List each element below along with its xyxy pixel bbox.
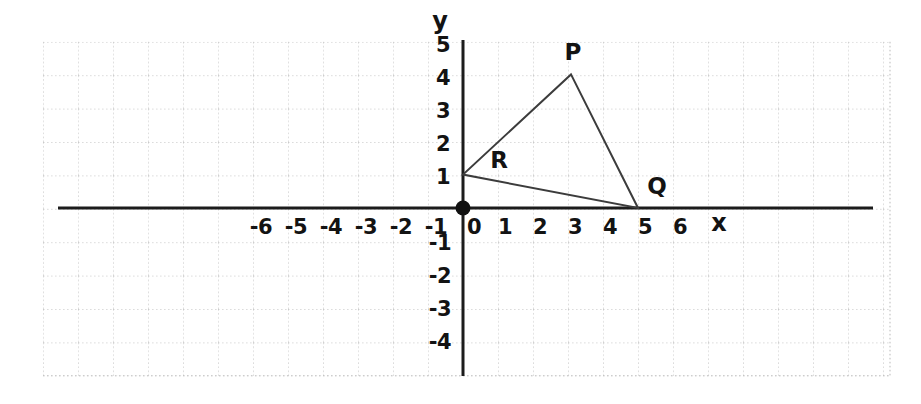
x-tick-neg6: -6 (250, 217, 272, 238)
y-tick-1: 1 (436, 167, 450, 188)
x-tick-neg1: -1 (425, 217, 447, 238)
vertex-label-q: Q (647, 175, 667, 198)
x-tick-1: 1 (498, 217, 512, 238)
y-tick-4: 4 (436, 68, 450, 89)
origin-dot (456, 201, 471, 216)
x-tick-4: 4 (603, 217, 617, 238)
x-tick-0: 0 (467, 217, 481, 238)
y-tick-neg2: -2 (429, 266, 451, 287)
x-tick-3: 3 (568, 217, 582, 238)
x-tick-6: 6 (673, 217, 687, 238)
x-tick-2: 2 (533, 217, 547, 238)
x-tick-neg4: -4 (320, 217, 342, 238)
x-tick-neg5: -5 (285, 217, 307, 238)
x-tick-neg3: -3 (355, 217, 377, 238)
y-tick-5: 5 (436, 35, 450, 56)
x-axis-label: x (711, 211, 726, 235)
coordinate-plane-figure: y x 5 4 3 2 1 -1 -2 -3 -4 -6 -5 -4 -3 -2… (0, 0, 921, 404)
vertex-label-p: P (565, 41, 582, 64)
x-tick-neg2: -2 (390, 217, 412, 238)
y-tick-3: 3 (436, 101, 450, 122)
graph-canvas (0, 0, 921, 404)
y-axis-label: y (432, 9, 448, 33)
vertex-label-r: R (490, 149, 508, 172)
y-tick-neg3: -3 (429, 299, 451, 320)
y-tick-2: 2 (436, 134, 450, 155)
y-tick-neg4: -4 (429, 332, 451, 353)
x-tick-5: 5 (638, 217, 652, 238)
